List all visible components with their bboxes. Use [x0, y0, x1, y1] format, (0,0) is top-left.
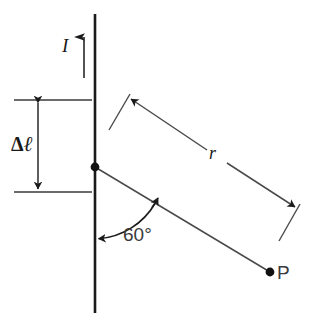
r-witness-tick-point-p [279, 204, 300, 241]
r-dimension-line-left [131, 99, 207, 150]
delta-symbol: Δ [11, 133, 24, 155]
angle-60-label: 60° [123, 225, 152, 244]
diagram-canvas [0, 0, 320, 331]
angle-arc-60-reverse-head [152, 198, 158, 208]
distance-r-label: r [209, 144, 216, 162]
point-p-label: P [277, 263, 290, 282]
point-p-dot [266, 268, 275, 277]
delta-l-label: Δℓ [11, 134, 32, 155]
source-point-dot [91, 163, 100, 172]
r-witness-tick-source [109, 94, 130, 130]
current-label: I [62, 36, 68, 55]
ray-to-point-p [95, 167, 270, 272]
physics-diagram-figure: I Δℓ r 60° P [0, 0, 320, 331]
r-dimension-line-right [227, 163, 295, 207]
ell-symbol: ℓ [24, 132, 33, 156]
